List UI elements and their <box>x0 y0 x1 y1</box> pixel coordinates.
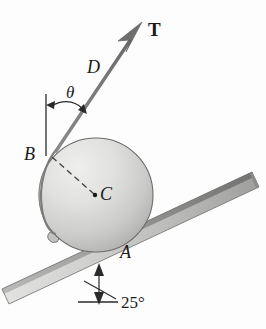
label-tangent-point-B: B <box>24 145 35 163</box>
label-cord-angle-theta: θ <box>66 84 74 101</box>
mechanics-figure: T D θ B C A 25° <box>0 0 266 329</box>
label-incline-angle-value: 25° <box>121 294 145 311</box>
theta-arrowhead-left <box>46 101 55 109</box>
label-contact-point-A: A <box>120 243 131 261</box>
tension-arrowhead <box>118 22 142 52</box>
center-point-dot <box>93 193 97 197</box>
label-cord-point-D: D <box>87 58 100 76</box>
label-center-point-C: C <box>100 185 112 203</box>
label-tension-T: T <box>148 20 161 39</box>
figure-canvas <box>0 0 266 329</box>
theta-arc <box>51 102 83 109</box>
angle-arrowhead-down <box>94 292 104 305</box>
angle-arrowhead-up <box>94 263 104 276</box>
